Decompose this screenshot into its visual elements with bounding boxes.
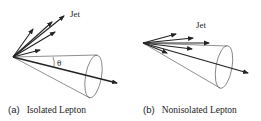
caption-a: (a) Isolated Lepton [8,99,86,116]
panel-a-isolated-lepton: Jet θ (a) Isolated Lepton [8,9,117,116]
jet-particle-arrow [13,32,55,57]
caption-text: Nonisolated Lepton [162,105,237,115]
jet-arrows [13,16,64,57]
caption-b: (b) Nonisolated Lepton [143,99,237,116]
angle-arc [53,57,54,67]
caption-prefix: (a) [8,104,20,115]
theta-label: θ [57,58,61,68]
jet-label: Jet [70,9,80,19]
jet-label: Jet [196,20,206,30]
lepton-isolation-diagram: Jet θ (a) Isolated Lepton Jet [0,0,261,121]
lepton-arrow [143,43,248,73]
caption-text: Isolated Lepton [27,105,87,115]
caption-prefix: (b) [143,104,155,115]
panel-b-nonisolated-lepton: Jet (b) Nonisolated Lepton [143,20,248,116]
isolation-cone [143,43,236,90]
